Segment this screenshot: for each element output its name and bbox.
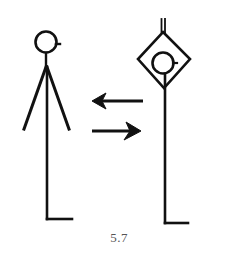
right-head-icon: [153, 53, 174, 74]
arrows: [92, 93, 143, 140]
left-head-icon: [36, 32, 57, 53]
arrow-right-icon: [92, 122, 141, 140]
figure-caption: 5.7: [0, 230, 238, 246]
diagram-svg: [0, 0, 238, 258]
left-stick-figure: [24, 32, 72, 220]
right-stick-figure: [138, 19, 190, 223]
arrow-left-icon: [92, 93, 143, 109]
figure-canvas: 5.7: [0, 0, 238, 258]
left-leg-left: [24, 67, 46, 129]
left-leg-right: [47, 67, 69, 129]
